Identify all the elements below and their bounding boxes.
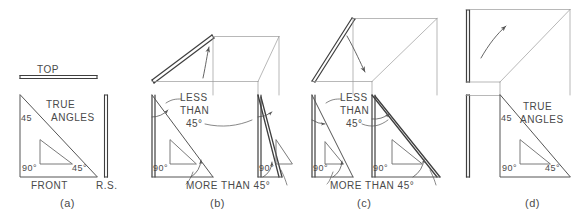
rotation-arrow-c [347, 36, 365, 72]
panel-c-top-view [312, 18, 437, 95]
rotation-arrow-d [481, 26, 506, 58]
panel-d-angle-top: 45 [501, 113, 512, 123]
rotation-arrow-b [203, 47, 209, 78]
panel-d-top-view [466, 10, 570, 96]
panel-b-less-line3: 45° [186, 118, 203, 129]
panel-c-caption: (c) [357, 197, 371, 209]
panel-a-true-label-line2: ANGLES [51, 112, 95, 123]
panel-a-caption: (a) [60, 197, 75, 209]
panel-b-less-line1: LESS [180, 92, 208, 103]
panel-a-true-label-line1: TRUE [46, 99, 75, 110]
panel-a-angle-right: 45° [72, 163, 87, 173]
technical-drawing-canvas [0, 0, 579, 222]
panel-c-more-than-label: MORE THAN 45° [330, 180, 414, 191]
panel-b-angle-corner-left: 90° [153, 163, 168, 173]
panel-d-true-label-line1: TRUE [523, 101, 552, 112]
panel-d-caption: (d) [525, 197, 540, 209]
panel-c-less-line1: LESS [340, 92, 368, 103]
panel-d-drawing [466, 10, 570, 178]
panel-b-top-view [152, 35, 279, 95]
panel-a-front-label: FRONT [31, 180, 68, 191]
panel-b-more-than-label: MORE THAN 45° [186, 180, 270, 191]
panel-a-angle-corner: 90° [22, 163, 37, 173]
panel-c-less-line3: 45° [346, 118, 363, 129]
panel-c-angle-corner-right: 90° [373, 163, 388, 173]
panel-b-caption: (b) [210, 197, 225, 209]
panel-c-less-line2: THAN [340, 105, 369, 116]
panel-d-angle-corner: 90° [502, 163, 517, 173]
panel-c-angle-corner-left: 90° [313, 163, 328, 173]
panel-a-angle-top: 45 [21, 113, 32, 123]
panel-b-angle-corner-right: 90° [259, 163, 274, 173]
panel-a-side-view-plate [105, 95, 108, 177]
panel-d-front-view-plate [466, 95, 500, 177]
panel-a-drawing [20, 76, 108, 178]
figure-root: TOP TRUE ANGLES 45 90° 45° FRONT R.S. (a… [0, 0, 579, 222]
panel-c-drawing [312, 18, 440, 185]
panel-d-angle-right: 45° [545, 163, 560, 173]
panel-a-top-view-plate [20, 76, 97, 79]
panel-d-true-label-line2: ANGLES [520, 114, 564, 125]
panel-b-less-line2: THAN [180, 105, 209, 116]
panel-a-top-label: TOP [37, 64, 59, 75]
panel-a-side-label: R.S. [96, 180, 117, 191]
